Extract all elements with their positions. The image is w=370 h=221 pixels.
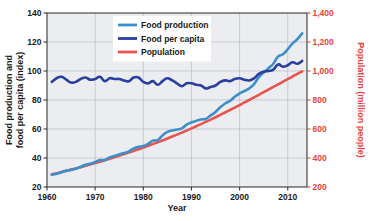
- tick-label-right: 800: [313, 95, 327, 105]
- tick-label-left: 140: [27, 8, 41, 18]
- tick-label-right: 1,200: [313, 37, 335, 47]
- tick-label-left: 120: [27, 37, 41, 47]
- line-chart: 204060801001201402004006008001,0001,2001…: [0, 0, 370, 221]
- tick-label-left: 60: [32, 124, 42, 134]
- legend-label-population: Population: [141, 47, 185, 57]
- tick-label-x: 1990: [182, 192, 201, 202]
- x-axis-title: Year: [167, 203, 187, 213]
- tick-label-x: 1980: [134, 192, 153, 202]
- y-axis-title-left: Food production and: [4, 55, 14, 145]
- tick-label-right: 600: [313, 124, 327, 134]
- tick-label-x: 2010: [278, 192, 297, 202]
- y-axis-title-right: Population (million people): [356, 42, 366, 158]
- tick-label-right: 1,000: [313, 66, 335, 76]
- tick-label-left: 80: [32, 95, 42, 105]
- tick-label-right: 1,400: [313, 8, 335, 18]
- tick-label-x: 1970: [86, 192, 105, 202]
- y-axis-title-left: food per capita (index): [15, 52, 25, 149]
- tick-label-right: 200: [313, 182, 327, 192]
- tick-label-left: 40: [32, 153, 42, 163]
- tick-label-x: 1960: [38, 192, 57, 202]
- tick-label-left: 20: [32, 182, 42, 192]
- legend-label-food-production: Food production: [141, 20, 209, 30]
- tick-label-left: 100: [27, 66, 41, 76]
- legend-label-food-per-capita: Food per capita: [141, 34, 205, 44]
- chart-container: 204060801001201402004006008001,0001,2001…: [0, 0, 370, 221]
- tick-label-x: 2000: [230, 192, 249, 202]
- tick-label-right: 400: [313, 153, 327, 163]
